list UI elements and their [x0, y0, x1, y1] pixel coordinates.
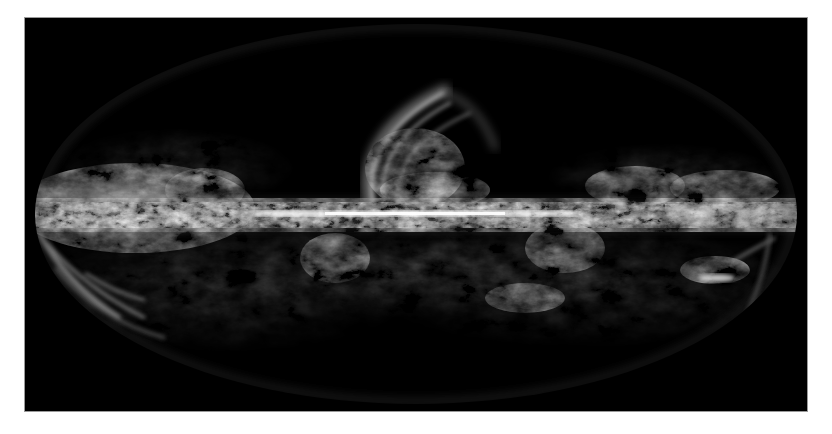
- all-sky-map: [25, 18, 807, 411]
- sky-map-frame: [25, 18, 807, 411]
